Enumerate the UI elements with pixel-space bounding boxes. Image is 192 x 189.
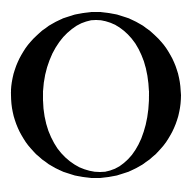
letter-o-shape	[0, 0, 192, 189]
letter-o-glyph: O	[0, 0, 192, 189]
